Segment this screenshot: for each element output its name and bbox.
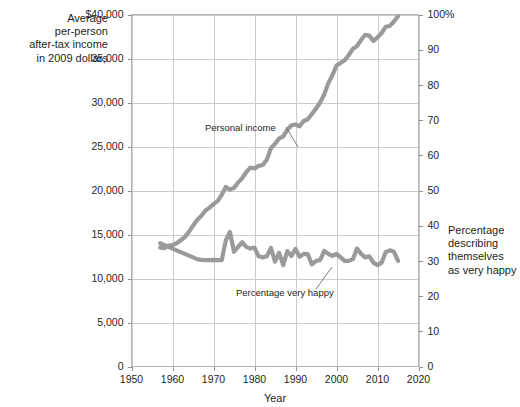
x-axis-tick-label: 1950: [120, 373, 144, 385]
y-axis-left-tick-label: 30,000: [91, 96, 123, 108]
annotation-label-percentage-very-happy: Percentage very happy: [236, 287, 334, 298]
series-line-percentage-very-happy: [160, 232, 398, 265]
y-axis-right-tick-label: 70: [428, 114, 440, 126]
y-axis-right-tick-label: 0: [428, 360, 434, 372]
y-axis-right-tick-label: 60: [428, 149, 440, 161]
annotation-leader-line: [316, 267, 332, 289]
x-axis-tick-label: 1960: [161, 373, 185, 385]
y-axis-left-tick-label: 0: [118, 360, 124, 372]
y-axis-right-tick-label: 90: [428, 43, 440, 55]
y-axis-left-tick-label: 20,000: [91, 184, 123, 196]
y-axis-right-tick-label: 40: [428, 219, 440, 231]
plot-border: [132, 15, 419, 367]
y-axis-right-tick-label: 20: [428, 290, 440, 302]
y-axis-left-tick-label: 35,000: [91, 52, 123, 64]
series-line-personal-income: [160, 16, 398, 248]
y-axis-right-tick-label: 100%: [428, 8, 455, 20]
y-axis-left-tick-label: 5,000: [97, 316, 123, 328]
x-axis-tick-label: 2000: [325, 373, 349, 385]
plot-frame: [132, 15, 419, 367]
x-axis-tick-label: 2010: [366, 373, 390, 385]
chart-root: Average per-person after-tax income in 2…: [0, 0, 520, 407]
tick-labels-group: 05,00010,00015,00020,00025,00030,00035,0…: [86, 8, 455, 384]
annotation-label-personal-income: Personal income: [205, 122, 276, 133]
series-group: [160, 16, 398, 265]
x-axis-tick-label: 1980: [243, 373, 267, 385]
x-axis-title-group: Year: [264, 392, 287, 404]
y-axis-right-tick-label: 50: [428, 184, 440, 196]
y-axis-left-tick-label: $40,000: [86, 8, 124, 20]
y-axis-right-tick-label: 30: [428, 255, 440, 267]
gridlines-group: [132, 15, 420, 367]
y-axis-left-tick-label: 10,000: [91, 272, 123, 284]
x-axis-tick-label: 1970: [202, 373, 226, 385]
x-axis-tick-label: 2020: [407, 373, 431, 385]
y-axis-left-tick-label: 15,000: [91, 228, 123, 240]
y-axis-right-tick-label: 80: [428, 79, 440, 91]
x-axis-tick-label: 1990: [284, 373, 308, 385]
y-axis-right-tick-label: 10: [428, 325, 440, 337]
x-axis-title: Year: [264, 392, 287, 404]
chart-plot-area: 05,00010,00015,00020,00025,00030,00035,0…: [0, 0, 520, 407]
y-axis-left-tick-label: 25,000: [91, 140, 123, 152]
